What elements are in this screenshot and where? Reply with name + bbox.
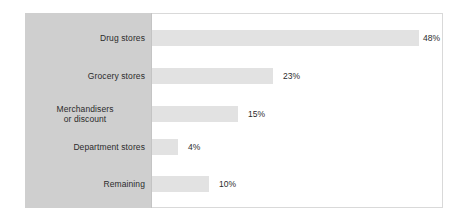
category-label: Merchandisers or discount [25, 104, 145, 124]
bar-value-label: 23% [283, 71, 300, 81]
bar-track: 48% [152, 30, 443, 46]
bar-track: 4% [152, 139, 443, 155]
bar-track: 10% [152, 176, 443, 192]
bar-row: Department stores 4% [25, 139, 443, 155]
bar-row: Remaining 10% [25, 176, 443, 192]
bar-value-label: 15% [248, 109, 265, 119]
bar [152, 68, 273, 84]
bar [152, 106, 238, 122]
bar-row: Drug stores 48% [25, 30, 443, 46]
bar-track: 15% [152, 106, 443, 122]
bar-value-label: 10% [219, 179, 236, 189]
bar [152, 30, 419, 46]
bar [152, 139, 178, 155]
bar [152, 176, 209, 192]
bar-value-label: 48% [423, 33, 440, 43]
category-label: Remaining [25, 179, 145, 189]
bar-track: 23% [152, 68, 443, 84]
category-label: Grocery stores [25, 71, 145, 81]
horizontal-bar-chart: Drug stores 48% Grocery stores 23% Merch… [0, 0, 465, 222]
bar-row: Merchandisers or discount 15% [25, 106, 443, 122]
category-label: Department stores [25, 142, 145, 152]
category-label: Drug stores [25, 33, 145, 43]
bar-value-label: 4% [188, 142, 200, 152]
bar-row: Grocery stores 23% [25, 68, 443, 84]
